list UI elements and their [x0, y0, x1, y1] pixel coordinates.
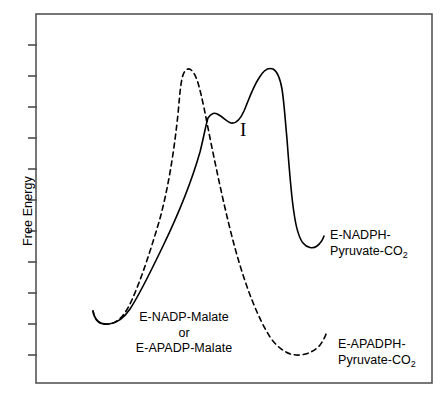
apadph-product-line-2-text: Pyruvate-CO: [338, 353, 411, 367]
intermediate-label: I: [240, 120, 246, 139]
y-axis-title: Free Energy: [21, 176, 35, 246]
apadph-product-line-2: Pyruvate-CO2: [338, 353, 416, 369]
reactant-state-line-1: E-NADP-Malate: [121, 310, 247, 326]
apadph-product-subscript: 2: [411, 358, 416, 368]
energy-curve-nadp-solid: [93, 68, 324, 324]
free-energy-diagram-figure: Free Energy E-NADP-Malate or E-APADP-Mal…: [0, 0, 440, 398]
reactant-state-line-3: E-APADP-Malate: [121, 341, 247, 357]
nadph-product-line-2: Pyruvate-CO2: [330, 244, 408, 260]
nadph-product-label: E-NADPH- Pyruvate-CO2: [330, 228, 408, 259]
apadph-product-line-1: E-APADPH-: [338, 337, 416, 353]
reactant-state-line-2: or: [121, 326, 247, 342]
nadph-product-line-2-text: Pyruvate-CO: [330, 244, 403, 258]
nadph-product-line-1: E-NADPH-: [330, 228, 408, 244]
apadph-product-label: E-APADPH- Pyruvate-CO2: [338, 337, 416, 368]
reactant-state-label: E-NADP-Malate or E-APADP-Malate: [121, 310, 247, 357]
nadph-product-subscript: 2: [403, 249, 408, 259]
